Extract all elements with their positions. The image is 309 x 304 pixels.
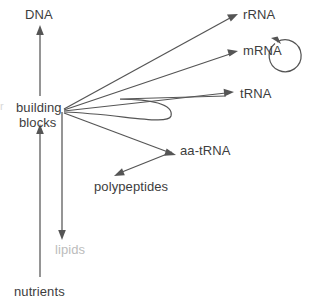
- node-label-rrna: rRNA: [243, 8, 275, 22]
- node-label-dna: DNA: [25, 8, 53, 22]
- node-label-nutrients: nutrients: [14, 285, 65, 299]
- edge-building-blocks-to-trna: [64, 89, 234, 111]
- node-label-mrna: mRNA: [243, 44, 282, 58]
- diagram-canvas: r: [0, 0, 309, 304]
- node-label-lipids: lipids: [55, 243, 85, 257]
- node-label-polypeptides: polypeptides: [94, 180, 168, 194]
- node-label-building: building: [16, 100, 62, 115]
- edge-building-blocks-to-lipids: [58, 112, 66, 240]
- node-label-trna: tRNA: [240, 87, 271, 101]
- edge-nutrients-to-building-blocks: [36, 124, 44, 277]
- edge-building-blocks-to-dna: [36, 25, 44, 96]
- edge-aa-trna-to-polypeptides: [114, 152, 172, 176]
- node-label-aa-trna: aa-tRNA: [180, 144, 231, 158]
- node-label-blocks: blocks: [19, 115, 56, 130]
